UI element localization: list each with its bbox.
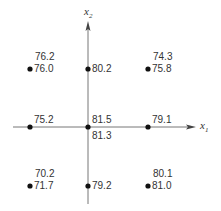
- response-value-top-left-0: 76.2: [35, 51, 55, 62]
- design-point-bottom-right: [145, 183, 150, 188]
- response-value-bottom-center-0: 79.2: [92, 180, 112, 191]
- design-point-bottom-left: [27, 183, 32, 188]
- response-value-center-1: 81.3: [92, 130, 112, 141]
- response-value-bottom-left-1: 71.7: [34, 180, 54, 191]
- response-value-bottom-right-0: 80.1: [153, 168, 173, 179]
- design-point-mid-right: [145, 124, 150, 129]
- design-point-bottom-center: [85, 183, 90, 188]
- x2-axis-label: x2: [83, 5, 93, 20]
- response-value-mid-left-0: 75.2: [34, 114, 54, 125]
- design-point-top-left: [27, 66, 32, 71]
- design-point-mid-left: [27, 124, 32, 129]
- design-point-top-center: [85, 66, 90, 71]
- design-diagram: x1 x2 76.276.080.274.375.875.281.581.379…: [0, 0, 221, 211]
- design-points: 76.276.080.274.375.875.281.581.379.170.2…: [27, 51, 173, 191]
- response-value-bottom-left-0: 70.2: [35, 168, 55, 179]
- response-value-mid-right-0: 79.1: [152, 114, 172, 125]
- response-value-top-right-0: 74.3: [153, 51, 173, 62]
- x1-axis-label: x1: [199, 119, 208, 134]
- response-value-bottom-right-1: 81.0: [152, 180, 172, 191]
- design-point-top-right: [145, 66, 150, 71]
- response-value-top-center-0: 80.2: [92, 63, 112, 74]
- response-value-center-0: 81.5: [92, 114, 112, 125]
- response-value-top-left-1: 76.0: [34, 63, 54, 74]
- response-value-top-right-1: 75.8: [152, 63, 172, 74]
- design-point-center: [85, 124, 90, 129]
